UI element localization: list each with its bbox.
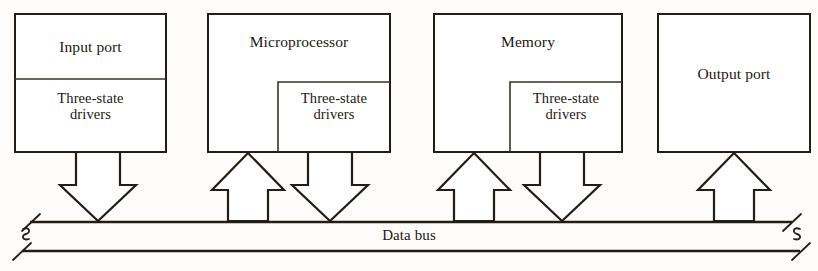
memory-up-arrow (438, 153, 510, 221)
data-bus-label: Data bus (309, 227, 509, 244)
memory-driver-label: Three-state drivers (510, 90, 622, 122)
memory-label: Memory (434, 33, 622, 50)
microprocessor-label: Microprocessor (208, 33, 390, 50)
bus-architecture-diagram: Input port Three-state drivers Microproc… (0, 0, 818, 271)
output-port-box (658, 14, 810, 152)
output-port-up-arrow (698, 153, 770, 221)
memory-down-arrow (524, 152, 600, 221)
input-port-label: Input port (15, 38, 166, 55)
input-port-down-arrow (60, 152, 136, 221)
microprocessor-down-arrow (292, 152, 368, 221)
output-port-label: Output port (658, 65, 810, 82)
input-port-box (15, 14, 166, 152)
bus-break-right-squiggle (794, 228, 800, 239)
microprocessor-up-arrow (212, 153, 284, 221)
input-port-driver-label: Three-state drivers (15, 90, 166, 122)
microprocessor-driver-label: Three-state drivers (278, 90, 390, 122)
